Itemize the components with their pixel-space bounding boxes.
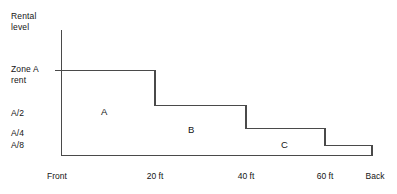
x-tick-label-40-ft: 40 ft xyxy=(226,171,266,181)
step-profile-line xyxy=(62,71,373,156)
x-tick-label-front: Front xyxy=(37,171,77,181)
x-tick-label-20-ft: 20 ft xyxy=(135,171,175,181)
x-tick-label-back: Back xyxy=(355,171,395,181)
y-tick-label-a-over-4: A/4 xyxy=(11,128,24,139)
diagram-canvas xyxy=(0,0,397,194)
zone-label-a: A xyxy=(101,107,107,117)
y-axis-caption: Rental level xyxy=(11,11,36,32)
y-tick-label-zone-a-rent: Zone A rent xyxy=(11,64,39,85)
y-tick-label-a-over-2: A/2 xyxy=(11,108,24,119)
x-tick-label-60-ft: 60 ft xyxy=(305,171,345,181)
zone-label-b: B xyxy=(188,125,194,135)
y-tick-label-a-over-8: A/8 xyxy=(11,140,24,151)
rental-level-step-diagram: Rental level Zone A rent A/2 A/4 A/8 A B… xyxy=(0,0,397,194)
zone-label-c: C xyxy=(281,140,288,150)
